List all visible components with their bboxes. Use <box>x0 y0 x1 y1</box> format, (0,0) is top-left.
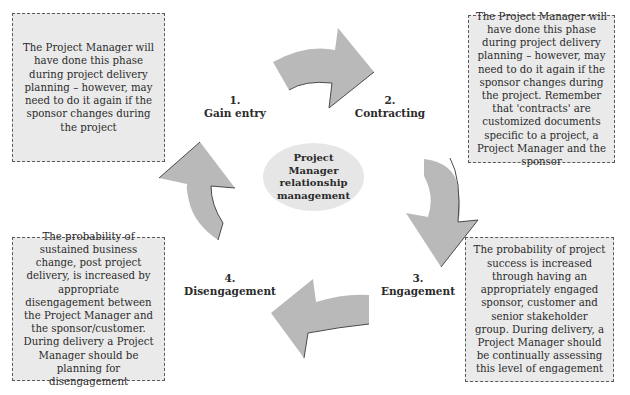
stage-label: Disengagement <box>180 285 280 298</box>
stage-number: 4. <box>180 272 280 285</box>
arrow-engagement-to-disengagement-icon <box>271 279 369 358</box>
note-text: The probability of project success is in… <box>473 243 606 375</box>
center-ellipse: Project Manager relationship management <box>263 143 364 211</box>
stage-number: 3. <box>373 272 463 285</box>
note-engagement: The probability of project success is in… <box>465 237 614 382</box>
stage-contracting: 2. Contracting <box>345 94 435 120</box>
stage-engagement: 3. Engagement <box>373 272 463 298</box>
note-gain-entry: The Project Manager will have done this … <box>12 13 165 162</box>
note-contracting: The Project Manager will have done this … <box>468 15 615 163</box>
stage-label: Engagement <box>373 285 463 298</box>
note-disengagement: The probability of sustained business ch… <box>12 237 165 381</box>
center-title-line: Project <box>277 152 350 165</box>
stage-gain-entry: 1. Gain entry <box>195 94 275 120</box>
center-title-line: Manager <box>277 165 350 178</box>
note-text: The Project Manager will have done this … <box>475 10 608 168</box>
arrow-disengagement-to-gain-icon <box>159 142 235 240</box>
stage-number: 1. <box>195 94 275 107</box>
note-text: The probability of sustained business ch… <box>19 230 158 388</box>
stage-number: 2. <box>345 94 435 107</box>
center-title-line: management <box>277 190 350 203</box>
note-text: The Project Manager will have done this … <box>21 41 156 133</box>
stage-disengagement: 4. Disengagement <box>180 272 280 298</box>
center-title-line: relationship <box>277 177 350 190</box>
stage-label: Contracting <box>345 107 435 120</box>
stage-label: Gain entry <box>195 107 275 120</box>
